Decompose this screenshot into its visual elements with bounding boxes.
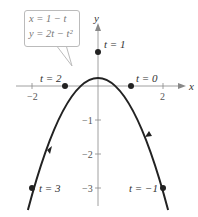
point-t3 — [29, 185, 35, 191]
x-axis-label: x — [188, 80, 194, 92]
point-label: t = 2 — [40, 72, 62, 84]
equation-callout: x = 1 − t y = 2t − t² — [24, 10, 80, 47]
y-tick-label: −2 — [82, 149, 93, 160]
point-label: t = −1 — [129, 182, 158, 194]
y-tick-label: −3 — [82, 183, 93, 194]
point-label: t = 3 — [39, 182, 61, 194]
point-t0 — [128, 83, 134, 89]
x-tick-label: 2 — [160, 91, 165, 102]
x-tick-label: −2 — [27, 91, 38, 102]
point-tneg1 — [160, 185, 166, 191]
equation-x: x = 1 − t — [29, 13, 67, 24]
direction-arrow-icon — [145, 131, 152, 137]
point-t1 — [95, 49, 101, 55]
point-label: t = 1 — [104, 38, 125, 50]
equation-y: y = 2t − t² — [29, 28, 73, 39]
y-axis-label: y — [93, 12, 99, 24]
point-t2 — [62, 83, 68, 89]
y-tick-label: −1 — [82, 115, 93, 126]
point-label: t = 0 — [136, 72, 158, 84]
callout-pointer — [56, 45, 72, 66]
